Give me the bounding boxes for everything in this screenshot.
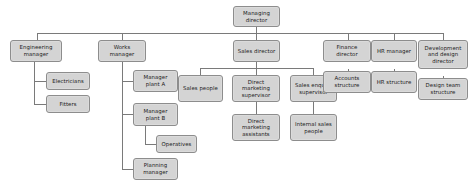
node-label: Fitters xyxy=(49,101,87,108)
node-label: HR structure xyxy=(374,79,414,86)
node-label: Finance director xyxy=(326,44,368,57)
node-label: HR manager xyxy=(374,48,414,55)
node-label: Works manager xyxy=(101,44,143,57)
node-sales-people[interactable]: Sales people xyxy=(178,75,223,102)
node-works-manager[interactable]: Works manager xyxy=(98,40,146,62)
connector-drop-direct-marketing-supervisor xyxy=(256,68,257,75)
node-operatives[interactable]: Operatives xyxy=(156,135,197,153)
node-label: Manager plant B xyxy=(136,108,175,121)
node-label: Engineering manager xyxy=(13,44,59,57)
connector-drop-sales-enquiry-supervisor xyxy=(313,68,314,75)
node-label: Design team structure xyxy=(421,82,465,95)
connector-engineering-to-fitters xyxy=(34,104,46,105)
node-managing-director[interactable]: Managing director xyxy=(233,6,280,27)
node-label: Operatives xyxy=(159,141,194,148)
node-hr-manager[interactable]: HR manager xyxy=(371,40,417,62)
connector-engineering-to-electricians xyxy=(34,81,46,82)
connector-drop-sales xyxy=(256,33,257,40)
node-label: Direct marketing assistants xyxy=(235,118,277,138)
connector-plantb-to-operatives xyxy=(145,144,156,145)
node-label: Electricians xyxy=(49,78,87,85)
node-label: Accounts structure xyxy=(326,75,368,88)
connector-works-to-plant-b xyxy=(122,114,133,115)
node-finance-director[interactable]: Finance director xyxy=(323,40,371,62)
org-chart: Managing director Engineering manager El… xyxy=(0,0,471,192)
node-hr-structure[interactable]: HR structure xyxy=(371,71,417,93)
node-electricians[interactable]: Electricians xyxy=(46,72,90,90)
node-label: Direct marketing supervisor xyxy=(235,79,277,99)
node-sales-director[interactable]: Sales director xyxy=(233,40,280,62)
node-label: Planning manager xyxy=(136,162,175,175)
node-label: Sales director xyxy=(236,48,277,55)
node-label: Development and design director xyxy=(421,45,465,65)
connector-drop-hr xyxy=(394,33,395,40)
node-fitters[interactable]: Fitters xyxy=(46,95,90,113)
connector-drop-sales-people xyxy=(200,68,201,75)
node-direct-marketing-assistants[interactable]: Direct marketing assistants xyxy=(232,114,280,141)
connector-engineering-spine xyxy=(34,62,35,104)
node-manager-plant-a[interactable]: Manager plant A xyxy=(133,70,178,92)
connector-works-to-plant-a xyxy=(122,81,133,82)
connector-plantb-spine xyxy=(145,126,146,144)
node-accounts-structure[interactable]: Accounts structure xyxy=(323,71,371,93)
node-manager-plant-b[interactable]: Manager plant B xyxy=(133,103,178,126)
node-internal-sales-people[interactable]: Internal sales people xyxy=(290,114,337,141)
connector-drop-engineering xyxy=(37,33,38,40)
connector-main-bus xyxy=(37,33,444,34)
connector-drop-works xyxy=(122,33,123,40)
node-label: Manager plant A xyxy=(136,74,175,87)
node-label: Internal sales people xyxy=(293,121,334,134)
connector-works-spine xyxy=(122,62,123,169)
node-label: Managing director xyxy=(236,10,277,23)
node-engineering-manager[interactable]: Engineering manager xyxy=(10,40,62,62)
node-label: Sales people xyxy=(181,85,220,92)
connector-dms-to-assistants xyxy=(256,102,257,114)
node-development-and-design-director[interactable]: Development and design director xyxy=(418,40,468,69)
node-direct-marketing-supervisor[interactable]: Direct marketing supervisor xyxy=(232,75,280,102)
connector-ses-to-internal-sales xyxy=(313,102,314,114)
connector-works-to-planning xyxy=(122,169,133,170)
node-design-team-structure[interactable]: Design team structure xyxy=(418,78,468,100)
connector-drop-development xyxy=(443,33,444,40)
node-planning-manager[interactable]: Planning manager xyxy=(133,158,178,180)
connector-drop-finance xyxy=(348,33,349,40)
